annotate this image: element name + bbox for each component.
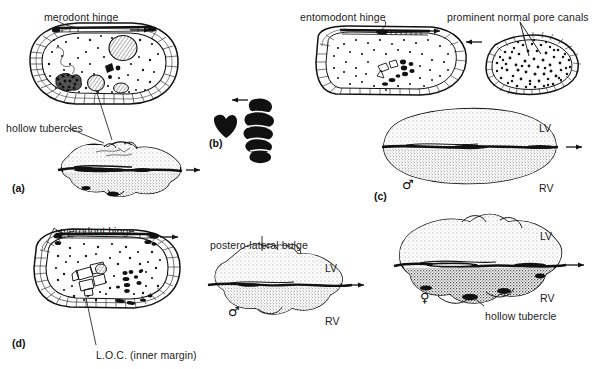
figure-plate: merodont hinge hollow tubercles entomodo… <box>0 0 600 369</box>
female-symbol-female: ♀ <box>420 291 430 304</box>
panel-c-internal-valve-left <box>316 20 466 95</box>
direction-arrow-female <box>566 262 584 267</box>
panel-a-internal-valve <box>30 20 178 104</box>
direction-arrow-b <box>232 97 248 102</box>
panel-c-internal-valve-right <box>466 22 581 95</box>
valve-label-rv-male: RV <box>325 315 339 327</box>
label-postero-lateral-bulge-d: postero-lateral bulge <box>210 239 308 251</box>
male-symbol-d: ♂ <box>228 305 240 318</box>
label-merodont-hinge-d: merodont hinge <box>60 225 134 237</box>
panel-label-d: (d) <box>12 337 25 349</box>
label-hollow-tubercles-a: hollow tubercles <box>6 122 83 134</box>
valve-label-rv-female: RV <box>540 292 554 304</box>
label-prominent-normal-pore-canals-c: prominent normal pore canals <box>447 11 589 23</box>
label-loc-inner-margin-d: L.O.C. (inner margin) <box>96 349 197 361</box>
panel-label-a: (a) <box>12 182 25 194</box>
direction-arrow-a-dorsal <box>186 167 200 172</box>
panel-b-muscle-scars <box>214 97 275 163</box>
label-hollow-tubercle-female: hollow tubercle <box>485 310 557 322</box>
valve-label-rv-c: RV <box>539 182 553 194</box>
valve-label-lv-c: LV <box>539 122 551 134</box>
male-symbol-c: ♂ <box>402 178 414 191</box>
panel-label-b: (b) <box>209 137 222 149</box>
direction-arrow-c-right <box>466 39 482 44</box>
panel-a-dorsal-view <box>58 90 200 202</box>
valve-label-lv-male: LV <box>325 262 337 274</box>
label-merodont-hinge-a: merodont hinge <box>44 11 118 23</box>
panel-label-c: (c) <box>374 190 387 202</box>
label-entomodont-hinge-c: entomodont hinge <box>300 11 386 23</box>
direction-arrow-c-dorsal <box>566 144 582 149</box>
panel-d-internal-valve <box>34 228 180 345</box>
direction-arrow-d-dorsal <box>346 282 364 287</box>
valve-label-lv-female: LV <box>540 230 552 242</box>
